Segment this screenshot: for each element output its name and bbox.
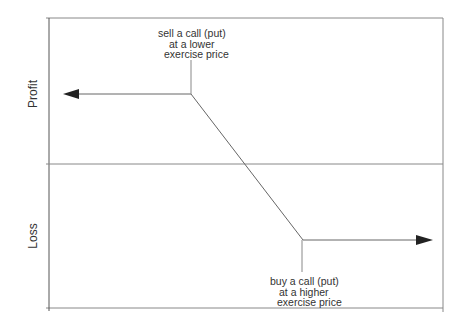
top-annotation-line-3: exercise price bbox=[164, 49, 229, 60]
top-annotation-line-1: sell a call (put) bbox=[158, 28, 229, 39]
profit-axis-label: Profit bbox=[26, 74, 40, 114]
payoff-diagram bbox=[0, 0, 466, 327]
top-annotation: sell a call (put) at a lower exercise pr… bbox=[158, 28, 229, 60]
bottom-annotation-line-1: buy a call (put) bbox=[270, 276, 342, 287]
bottom-annotation: buy a call (put) at a higher exercise pr… bbox=[270, 276, 342, 308]
left-arrow-icon bbox=[63, 89, 79, 99]
right-arrow-icon bbox=[416, 235, 433, 245]
loss-axis-label: Loss bbox=[26, 216, 40, 256]
payoff-line bbox=[78, 94, 418, 240]
bottom-annotation-line-3: exercise price bbox=[277, 297, 342, 308]
